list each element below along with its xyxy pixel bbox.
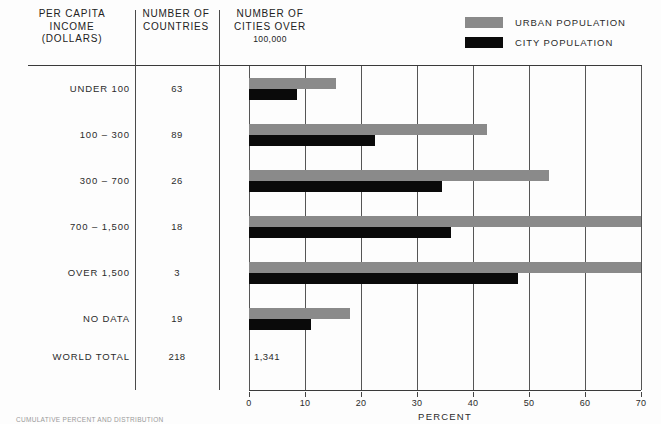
x-tick-20 bbox=[361, 392, 362, 397]
x-tick-50 bbox=[529, 392, 530, 397]
legend-label-city: CITY POPULATION bbox=[515, 37, 613, 48]
table-row: 700 – 1,50018194 bbox=[0, 204, 661, 250]
column-header-cities-line1: NUMBER OF bbox=[236, 8, 303, 21]
x-tick-label-50: 50 bbox=[524, 398, 535, 408]
table-row: NO DATA19178 bbox=[0, 296, 661, 342]
total-countries: 218 bbox=[135, 344, 219, 370]
column-header-countries: NUMBER OF COUNTRIES bbox=[134, 8, 218, 33]
table-row: 100 – 30089303 bbox=[0, 112, 661, 158]
row-bars bbox=[249, 250, 649, 296]
bar-urban-population bbox=[249, 78, 336, 89]
bar-city-population bbox=[249, 135, 375, 146]
x-tick-label-10: 10 bbox=[300, 398, 311, 408]
x-tick-70 bbox=[641, 392, 642, 397]
x-tick-0 bbox=[249, 392, 250, 397]
row-value-countries: 26 bbox=[135, 158, 219, 204]
city-swatch-icon bbox=[465, 37, 503, 48]
table-row: UNDER 10063186 bbox=[0, 66, 661, 112]
x-tick-label-40: 40 bbox=[468, 398, 479, 408]
x-tick-label-20: 20 bbox=[356, 398, 367, 408]
bar-city-population bbox=[249, 319, 311, 330]
row-bars bbox=[249, 66, 649, 112]
table-row-total: WORLD TOTAL 218 1,341 bbox=[0, 344, 661, 370]
bar-urban-population bbox=[249, 308, 350, 319]
bar-urban-population bbox=[249, 262, 641, 273]
column-header-income-line1: PER CAPITA bbox=[39, 8, 106, 21]
column-header-cities: NUMBER OF CITIES OVER 100,000 bbox=[222, 8, 318, 46]
x-tick-label-60: 60 bbox=[580, 398, 591, 408]
bar-city-population bbox=[249, 227, 451, 238]
chart-legend: URBAN POPULATION CITY POPULATION bbox=[465, 14, 655, 54]
row-bars bbox=[249, 204, 649, 250]
x-tick-40 bbox=[473, 392, 474, 397]
row-label-income: OVER 1,500 bbox=[14, 250, 130, 296]
x-axis-line bbox=[249, 390, 641, 391]
column-header-income: PER CAPITA INCOME (DOLLARS) bbox=[14, 8, 130, 46]
urban-swatch-icon bbox=[465, 17, 503, 28]
row-label-income: 100 – 300 bbox=[14, 112, 130, 158]
chart-figure: URBAN POPULATION CITY POPULATION PER CAP… bbox=[0, 0, 661, 424]
bar-urban-population bbox=[249, 124, 487, 135]
legend-label-urban: URBAN POPULATION bbox=[515, 17, 626, 28]
x-tick-60 bbox=[585, 392, 586, 397]
row-value-countries: 89 bbox=[135, 112, 219, 158]
row-bars bbox=[249, 296, 649, 342]
table-row: OVER 1,5003171 bbox=[0, 250, 661, 296]
x-axis-title: PERCENT bbox=[249, 411, 641, 422]
row-label-income: 700 – 1,500 bbox=[14, 204, 130, 250]
x-tick-label-30: 30 bbox=[412, 398, 423, 408]
bar-urban-population bbox=[249, 170, 549, 181]
x-tick-30 bbox=[417, 392, 418, 397]
column-header-countries-line1: NUMBER OF bbox=[142, 8, 209, 21]
column-header-income-line2: INCOME bbox=[50, 21, 95, 34]
legend-item-city: CITY POPULATION bbox=[465, 34, 655, 50]
row-label-income: NO DATA bbox=[14, 296, 130, 342]
bar-city-population bbox=[249, 89, 297, 100]
x-tick-label-0: 0 bbox=[246, 398, 251, 408]
row-value-countries: 3 bbox=[135, 250, 219, 296]
column-header-income-line3: (DOLLARS) bbox=[42, 33, 103, 46]
bar-city-population bbox=[249, 273, 518, 284]
total-label: WORLD TOTAL bbox=[14, 344, 130, 370]
row-value-countries: 63 bbox=[135, 66, 219, 112]
legend-item-urban: URBAN POPULATION bbox=[465, 14, 655, 30]
bar-urban-population bbox=[249, 216, 641, 227]
figure-footnote: CUMULATIVE PERCENT AND DISTRIBUTION bbox=[16, 416, 164, 423]
column-header-cities-line3: 100,000 bbox=[253, 33, 287, 46]
row-bars bbox=[249, 158, 649, 204]
bar-city-population bbox=[249, 181, 442, 192]
x-tick-label-70: 70 bbox=[636, 398, 647, 408]
row-label-income: UNDER 100 bbox=[14, 66, 130, 112]
row-value-countries: 18 bbox=[135, 204, 219, 250]
table-row: 300 – 70026309 bbox=[0, 158, 661, 204]
row-label-income: 300 – 700 bbox=[14, 158, 130, 204]
row-bars bbox=[249, 112, 649, 158]
x-tick-10 bbox=[305, 392, 306, 397]
row-value-countries: 19 bbox=[135, 296, 219, 342]
total-cities: 1,341 bbox=[219, 344, 315, 370]
column-header-countries-line2: COUNTRIES bbox=[143, 21, 209, 34]
column-header-cities-line2: CITIES OVER bbox=[234, 21, 306, 34]
